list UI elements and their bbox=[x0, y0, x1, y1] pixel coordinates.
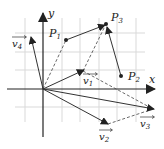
label-p3: P3 bbox=[110, 11, 123, 25]
point-p2 bbox=[119, 74, 123, 78]
svg-text:v2: v2 bbox=[99, 131, 110, 144]
svg-text:v4: v4 bbox=[12, 38, 22, 51]
label-p2: P2 bbox=[127, 70, 140, 84]
vector-v4 bbox=[31, 37, 43, 89]
vector-v1 bbox=[43, 70, 84, 89]
label-v2: v2 bbox=[99, 129, 113, 145]
svg-text:v3: v3 bbox=[140, 118, 151, 131]
point-p3 bbox=[104, 22, 108, 26]
point-p1 bbox=[64, 38, 68, 42]
label-p1: P1 bbox=[48, 27, 61, 41]
y-axis-label: y bbox=[47, 7, 55, 20]
vector-diagram: y x P1 P3 P2 v4 v1 v2 v3 bbox=[0, 0, 164, 149]
label-v4: v4 bbox=[12, 36, 27, 52]
grid bbox=[15, 18, 145, 122]
label-v1: v1 bbox=[83, 73, 98, 89]
label-v3: v3 bbox=[140, 116, 155, 132]
x-axis-label: x bbox=[149, 73, 156, 86]
svg-text:v1: v1 bbox=[83, 75, 93, 88]
